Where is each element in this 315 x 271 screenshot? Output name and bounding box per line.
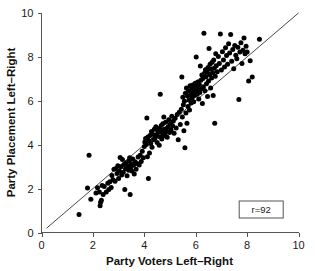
data-point bbox=[158, 92, 163, 97]
data-point bbox=[234, 56, 239, 61]
data-point bbox=[223, 45, 228, 50]
data-point bbox=[218, 32, 223, 37]
y-tick-label-1: 2 bbox=[27, 183, 33, 195]
data-point bbox=[244, 44, 249, 49]
x-tick-label-5: 10 bbox=[292, 239, 304, 251]
data-point bbox=[125, 173, 130, 178]
data-point bbox=[217, 61, 222, 66]
data-point bbox=[208, 86, 213, 91]
data-point bbox=[165, 135, 170, 140]
data-point bbox=[99, 198, 104, 203]
data-point bbox=[179, 75, 184, 80]
y-axis-ticks bbox=[38, 14, 42, 234]
data-point bbox=[146, 176, 151, 181]
data-point bbox=[207, 46, 212, 51]
data-point bbox=[229, 59, 234, 64]
data-point bbox=[191, 99, 196, 104]
y-tick-label-4: 8 bbox=[27, 51, 33, 63]
x-tick-label-2: 4 bbox=[141, 239, 147, 251]
data-point bbox=[178, 122, 183, 127]
data-point bbox=[134, 167, 139, 172]
y-tick-label-2: 4 bbox=[27, 139, 33, 151]
scatter-plot-figure: 0246810 0246810 r=92 Party Voters Left–R… bbox=[0, 0, 315, 271]
data-point bbox=[187, 108, 192, 113]
data-point bbox=[88, 197, 93, 202]
data-point bbox=[181, 128, 186, 133]
x-axis-title: Party Voters Left–Right bbox=[106, 255, 233, 267]
annotation-layer: r=92 bbox=[239, 201, 283, 218]
data-point bbox=[216, 54, 221, 59]
data-point bbox=[220, 49, 225, 54]
data-point bbox=[120, 157, 125, 162]
scatter-plot-canvas: 0246810 0246810 r=92 Party Voters Left–R… bbox=[0, 0, 315, 271]
y-axis-title: Party Placement Left–Right bbox=[5, 48, 17, 198]
data-point bbox=[235, 45, 240, 50]
data-point bbox=[140, 149, 145, 154]
data-point bbox=[147, 151, 152, 156]
data-point bbox=[212, 121, 217, 126]
y-tick-label-3: 6 bbox=[27, 95, 33, 107]
data-point bbox=[201, 31, 206, 36]
data-point bbox=[184, 121, 189, 126]
data-point bbox=[180, 115, 185, 120]
data-point bbox=[132, 172, 137, 177]
data-point bbox=[228, 32, 233, 37]
y-tick-label-5: 10 bbox=[21, 7, 33, 19]
data-point bbox=[242, 36, 247, 41]
data-point bbox=[211, 93, 216, 98]
data-point bbox=[246, 79, 251, 84]
data-point bbox=[182, 145, 187, 150]
correlation-box-text: r=92 bbox=[252, 204, 271, 215]
x-tick-label-0: 0 bbox=[38, 239, 44, 251]
x-tick-label-1: 2 bbox=[90, 239, 96, 251]
x-axis-tick-labels: 0246810 bbox=[38, 239, 304, 251]
y-tick-label-0: 0 bbox=[27, 227, 33, 239]
data-point bbox=[109, 185, 114, 190]
data-point bbox=[179, 107, 184, 112]
data-point bbox=[122, 187, 127, 192]
data-point bbox=[172, 131, 177, 136]
data-point bbox=[161, 115, 166, 120]
x-axis-ticks bbox=[43, 233, 300, 237]
data-point bbox=[196, 97, 201, 102]
data-point bbox=[87, 153, 92, 158]
x-tick-label-3: 6 bbox=[193, 239, 199, 251]
data-point bbox=[250, 75, 255, 80]
data-point bbox=[194, 54, 199, 59]
data-point-series bbox=[77, 31, 262, 217]
data-point bbox=[205, 94, 210, 99]
data-point bbox=[248, 58, 253, 63]
data-point bbox=[221, 57, 226, 62]
data-point bbox=[176, 137, 181, 142]
data-point bbox=[226, 41, 231, 46]
data-point bbox=[77, 212, 82, 217]
data-point bbox=[85, 185, 90, 190]
y-axis-tick-labels: 0246810 bbox=[21, 7, 33, 239]
data-point bbox=[239, 61, 244, 66]
data-point bbox=[238, 40, 243, 45]
data-point bbox=[182, 99, 187, 104]
data-point bbox=[198, 64, 203, 69]
data-point bbox=[95, 185, 100, 190]
data-point bbox=[157, 143, 162, 148]
data-point bbox=[211, 57, 216, 62]
data-point bbox=[202, 88, 207, 93]
data-point bbox=[128, 192, 133, 197]
data-point bbox=[109, 173, 114, 178]
data-point bbox=[213, 74, 218, 79]
data-point bbox=[231, 66, 236, 71]
data-point bbox=[245, 50, 250, 55]
data-point bbox=[236, 97, 241, 102]
data-point bbox=[144, 115, 149, 120]
data-point bbox=[225, 62, 230, 67]
x-tick-label-4: 8 bbox=[244, 239, 250, 251]
data-point bbox=[257, 37, 262, 42]
data-point bbox=[200, 101, 205, 106]
data-point bbox=[150, 145, 155, 150]
data-point bbox=[174, 126, 179, 131]
